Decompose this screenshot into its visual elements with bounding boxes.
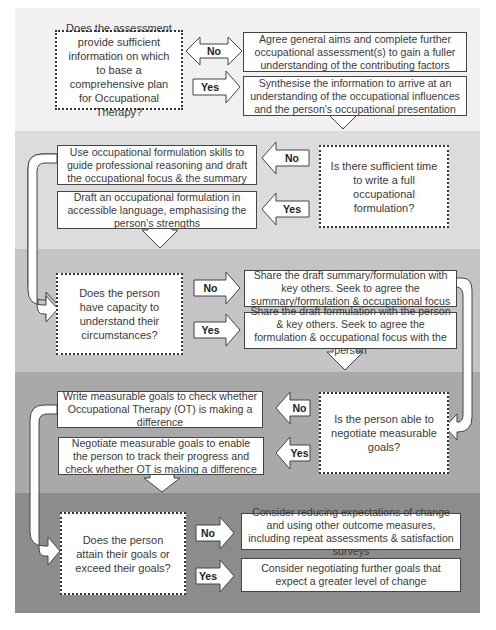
band1-yes-label: Yes: [194, 80, 226, 94]
outcome-draft-formulation: Draft an occupational formulation in acc…: [57, 191, 257, 229]
band3-yes-label: Yes: [195, 323, 226, 337]
outcome-further-goals: Consider negotiating further goals that …: [241, 558, 461, 592]
decision-sufficient-time: Is there sufficient time to write a full…: [319, 145, 449, 228]
band2-no-label: No: [276, 151, 308, 165]
outcome-share-with-key-others: Share the draft summary/formulation with…: [244, 270, 457, 307]
outcome-negotiate-measurable-goals: Negotiate measurable goals to enable the…: [58, 437, 264, 475]
outcome-further-assessment: Agree general aims and complete further …: [243, 32, 467, 72]
outcome-draft-focus-summary: Use occupational formulation skills to g…: [57, 145, 257, 185]
band5-no-label: No: [196, 526, 220, 540]
outcome-reduce-expectations: Consider reducing expectations of change…: [241, 513, 461, 550]
outcome-synthesise-information: Synthesise the information to arrive at …: [243, 76, 467, 116]
decision-able-to-negotiate-goals: Is the person able to negotiate measurab…: [319, 392, 449, 474]
decision-assessment-sufficient: Does the assessment provide sufficient i…: [55, 30, 183, 110]
band3-no-label: No: [195, 281, 226, 295]
band1-no-label: No: [200, 44, 228, 58]
outcome-write-measurable-goals: Write measurable goals to check whether …: [57, 391, 263, 428]
band4-yes-label: Yes: [289, 446, 310, 460]
decision-attain-goals: Does the person attain their goals or ex…: [60, 512, 186, 595]
decision-capacity-to-understand: Does the person have capacity to underst…: [56, 273, 183, 355]
band2-yes-label: Yes: [276, 202, 308, 216]
outcome-share-with-person: Share the draft formulation with the per…: [244, 312, 457, 349]
band4-no-label: No: [289, 401, 310, 415]
band5-yes-label: Yes: [196, 569, 220, 583]
